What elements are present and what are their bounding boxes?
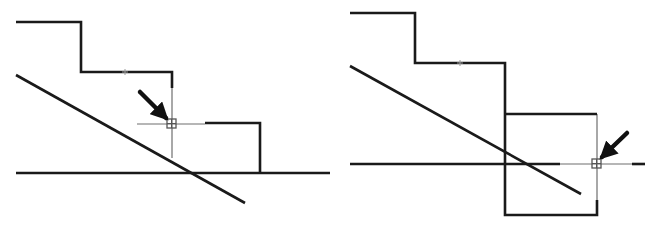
pointer-arrow-icon <box>602 133 627 157</box>
midpoint-tick-icon <box>457 60 463 66</box>
profile-line <box>16 75 245 203</box>
snap-crosshair-icon <box>592 159 601 168</box>
stair-diagram <box>0 0 663 227</box>
right-panel <box>350 13 645 215</box>
left-panel <box>16 22 330 203</box>
profile-line <box>350 66 581 194</box>
snap-crosshair-icon <box>167 119 176 128</box>
midpoint-tick-icon <box>122 69 128 75</box>
profile-line <box>16 22 172 88</box>
profile-line <box>205 123 260 173</box>
pointer-arrow-icon <box>140 92 166 118</box>
